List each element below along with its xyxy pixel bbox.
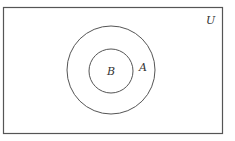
universe-label: U [206, 14, 216, 27]
set-a-label: A [138, 61, 147, 74]
set-b-label: B [106, 65, 115, 78]
venn-diagram: U A B [0, 0, 235, 141]
